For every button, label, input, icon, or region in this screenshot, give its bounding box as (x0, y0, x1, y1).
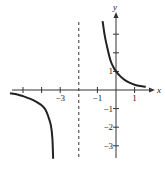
x-tick-label: −3 (55, 93, 65, 103)
y-tick-label: −1 (103, 104, 113, 114)
y-axis-arrow-icon (114, 12, 119, 18)
x-tick-label: −1 (93, 93, 103, 103)
function-graph: −3−111−1−2−3 x y (0, 0, 165, 170)
x-axis-label: x (156, 85, 161, 95)
x-tick-label: 1 (132, 93, 137, 103)
x-axis-arrow-icon (149, 88, 155, 93)
right-branch-curve (103, 21, 146, 87)
y-tick-label: 1 (109, 66, 114, 76)
left-branch-curve (10, 93, 53, 159)
y-axis-label: y (112, 2, 117, 12)
y-tick-label: −3 (103, 141, 113, 151)
y-tick-label: −2 (103, 122, 113, 132)
